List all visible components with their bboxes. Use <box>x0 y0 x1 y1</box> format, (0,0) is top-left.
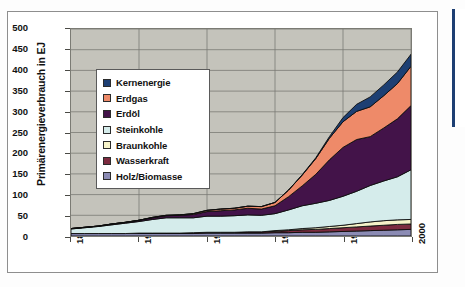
x-tick-mark <box>138 237 139 242</box>
x-tick-mark <box>412 237 413 242</box>
figure-root: Primärenergieverbrauch in EJ 05010015020… <box>0 0 465 287</box>
legend-label: Wasserkraft <box>116 155 169 166</box>
legend-swatch-icon <box>103 79 111 87</box>
legend-label: Steinkohle <box>116 124 163 135</box>
y-tick-label: 50 <box>0 210 28 221</box>
legend-item: Kernenergie <box>103 75 203 91</box>
legend-item: Erdgas <box>103 91 203 107</box>
legend-label: Holz/Biomasse <box>116 171 182 182</box>
y-axis-title: Primärenergieverbrauch in EJ <box>35 19 47 209</box>
y-tick-label: 450 <box>0 43 28 54</box>
x-tick-mark <box>70 237 71 242</box>
legend-item: Wasserkraft <box>103 153 203 169</box>
y-tick-label: 300 <box>0 106 28 117</box>
legend-swatch-icon <box>103 94 111 102</box>
legend-item: Steinkohle <box>103 122 203 138</box>
y-tick-label: 200 <box>0 147 28 158</box>
x-tick-mark <box>207 237 208 242</box>
legend-swatch-icon <box>103 126 111 134</box>
legend-swatch-icon <box>103 157 111 165</box>
legend-item: Holz/Biomasse <box>103 169 203 185</box>
right-edge-accent-bar <box>452 9 465 127</box>
y-tick-label: 150 <box>0 168 28 179</box>
y-tick-label: 400 <box>0 64 28 75</box>
x-tick-label: 2000 <box>416 223 427 244</box>
y-tick-label: 250 <box>0 127 28 138</box>
x-tick-mark <box>344 237 345 242</box>
legend-label: Kernenergie <box>116 77 170 88</box>
legend-swatch-icon <box>103 141 111 149</box>
y-tick-label: 100 <box>0 189 28 200</box>
legend-swatch-icon <box>103 172 111 180</box>
legend-box: KernenergieErdgasErdölSteinkohleBraunkoh… <box>96 69 210 189</box>
legend-label: Braunkohle <box>116 140 167 151</box>
x-tick-mark <box>275 237 276 242</box>
legend-label: Erdgas <box>116 93 148 104</box>
stacked-area-chart: Primärenergieverbrauch in EJ 05010015020… <box>8 12 437 272</box>
y-tick-label: 0 <box>0 231 28 242</box>
legend-item: Braunkohle <box>103 137 203 153</box>
y-tick-label: 500 <box>0 22 28 33</box>
legend-item: Erdöl <box>103 106 203 122</box>
legend-swatch-icon <box>103 110 111 118</box>
y-tick-label: 350 <box>0 85 28 96</box>
legend-label: Erdöl <box>116 108 140 119</box>
